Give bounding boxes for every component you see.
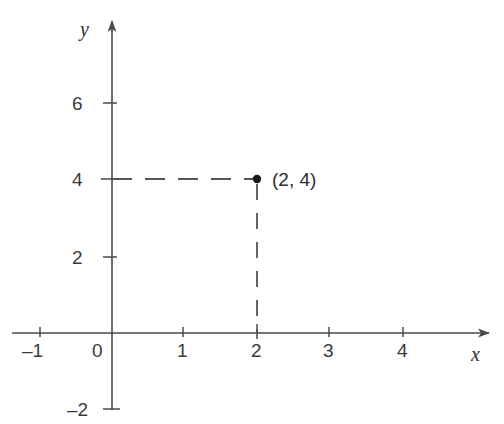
coordinate-plane-figure: –1 0 1 2 3 4 6 4 2 –2 y x (2, 4) [0,0,504,424]
guide-lines [112,179,257,333]
x-tick-label--1: –1 [22,341,43,360]
y-axis-label: y [80,19,89,39]
y-tick-label-2: 2 [72,248,83,267]
x-tick-label-4: 4 [397,341,408,360]
x-axis [12,324,489,339]
plotted-point-2-4 [253,175,261,183]
y-axis [101,21,120,410]
point-annotation: (2, 4) [272,170,316,189]
x-tick-label-3: 3 [323,341,334,360]
x-tick-label-0: 0 [92,341,103,360]
x-tick-label-2: 2 [251,341,262,360]
x-axis-label: x [471,344,480,364]
y-tick-label-6: 6 [72,94,83,113]
x-tick-label-1: 1 [177,341,188,360]
y-tick-label--2: –2 [67,400,88,419]
y-tick-label-4: 4 [72,170,83,189]
